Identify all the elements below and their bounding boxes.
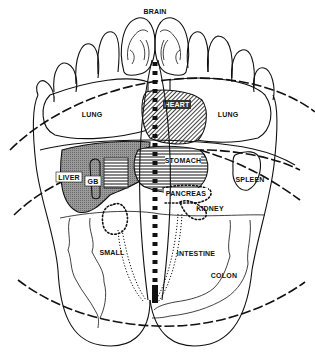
label-lung-right: LUNG bbox=[218, 111, 239, 118]
kidney-region: KIDNEY bbox=[102, 201, 224, 234]
label-colon: COLON bbox=[211, 272, 237, 279]
spleen-region: SPLEEN bbox=[233, 152, 265, 191]
label-liver: LIVER bbox=[58, 174, 80, 181]
waist-line-right bbox=[200, 150, 300, 200]
intestine-colon-region: INTESTINE COLON bbox=[152, 220, 250, 318]
label-gb: GB bbox=[88, 178, 99, 185]
label-kidney: KIDNEY bbox=[196, 205, 224, 212]
heel-line-curve bbox=[18, 280, 305, 326]
label-pancreas: PANCREAS bbox=[166, 190, 206, 197]
waist-line bbox=[60, 211, 265, 218]
label-lung-left: LUNG bbox=[82, 111, 103, 118]
label-spleen: SPLEEN bbox=[235, 176, 264, 183]
reflexology-diagram: BRAIN LUNG LUNG HEART LIVER GB STOMACH bbox=[0, 0, 315, 358]
label-heart: HEART bbox=[164, 101, 190, 108]
ureter-lines bbox=[118, 214, 182, 302]
label-small: SMALL bbox=[99, 249, 125, 256]
label-brain: BRAIN bbox=[143, 8, 166, 15]
heart-region: HEART bbox=[142, 90, 206, 144]
label-intestine: INTESTINE bbox=[177, 250, 215, 257]
lung-left: LUNG bbox=[43, 79, 148, 139]
